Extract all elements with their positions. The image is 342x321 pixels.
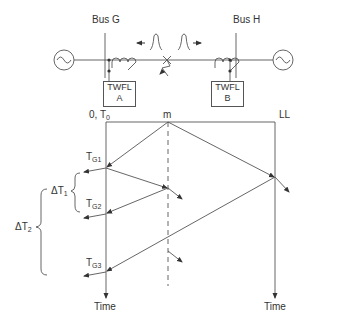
twfl-b-line1: TWFL bbox=[212, 82, 243, 93]
tg1-label: TG1 bbox=[86, 152, 101, 163]
time-right-label: Time bbox=[264, 302, 286, 312]
twfl-b-box: TWFL B bbox=[211, 81, 244, 107]
line-length-label: LL bbox=[279, 110, 290, 120]
delta-t1-brace bbox=[71, 173, 80, 212]
delta-t2-brace bbox=[36, 189, 47, 275]
source-g-icon bbox=[54, 50, 74, 70]
twfl-a-line2: A bbox=[104, 93, 135, 104]
lattice-diagram: Bus G Bus H TWFL A TWFL B 0, T0 m LL TG1… bbox=[0, 0, 342, 321]
fault-point-label: m bbox=[163, 110, 171, 120]
diagram-graphics bbox=[0, 0, 342, 321]
tg2-label: TG2 bbox=[86, 199, 101, 210]
twfl-b-line2: B bbox=[212, 93, 243, 104]
bus-g-label: Bus G bbox=[92, 15, 120, 25]
origin-label: 0, T0 bbox=[89, 110, 110, 121]
twfl-a-line1: TWFL bbox=[104, 82, 135, 93]
time-left-label: Time bbox=[94, 302, 116, 312]
fault-icon bbox=[162, 56, 171, 76]
source-h-icon bbox=[273, 50, 293, 70]
twfl-a-box: TWFL A bbox=[103, 81, 136, 107]
tg3-label: TG3 bbox=[86, 258, 101, 269]
delta-t1-label: ΔT1 bbox=[51, 186, 68, 197]
bus-h-label: Bus H bbox=[233, 15, 260, 25]
delta-t2-label: ΔT2 bbox=[15, 222, 32, 233]
